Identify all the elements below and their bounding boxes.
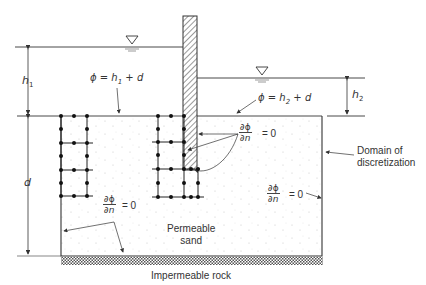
impermeable-rock <box>61 257 323 265</box>
d-label: d <box>24 177 31 188</box>
bc-left-fraction: ∂ϕ∂n <box>103 194 116 215</box>
upstream-head-label: ϕ = h1 + d <box>90 72 143 88</box>
bc-right-fraction: ∂ϕ∂n <box>267 183 280 204</box>
bc-left-eq: = 0 <box>122 200 136 211</box>
h2-label: h2 <box>352 89 363 105</box>
water-level-marker-right <box>255 67 269 82</box>
downstream-head-label: ϕ = h2 + d <box>258 92 311 108</box>
bc-pile-fraction: ∂ϕ∂n <box>239 122 252 143</box>
bc-right-eq: = 0 <box>289 189 303 200</box>
sand-label: Permeable sand <box>167 223 215 247</box>
h1-label: h1 <box>22 75 33 91</box>
sheet-pile <box>183 16 197 170</box>
domain-label: Domain of discretization <box>357 145 415 169</box>
water-level-marker-left <box>125 36 139 51</box>
bc-pile-eq: = 0 <box>262 128 276 139</box>
rock-label: Impermeable rock <box>151 270 231 281</box>
